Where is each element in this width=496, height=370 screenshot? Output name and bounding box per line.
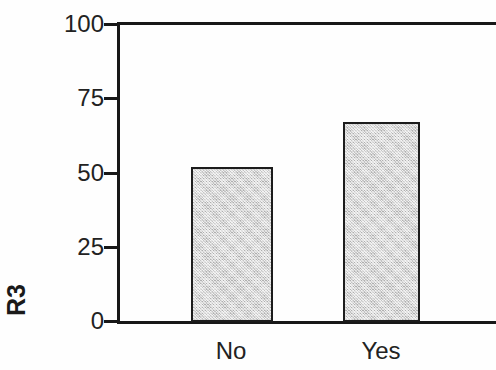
y-axis-tick-labels: 100 75 50 25 0 <box>44 0 104 370</box>
bar-yes <box>343 122 420 322</box>
plot-area <box>117 24 496 322</box>
y-tick-mark-0 <box>104 320 118 323</box>
bar-no <box>191 167 273 322</box>
x-tick-label-yes: Yes <box>321 337 441 365</box>
y-tick-label-50: 50 <box>44 159 104 187</box>
y-tick-mark-75 <box>104 97 118 100</box>
y-tick-label-25: 25 <box>44 233 104 261</box>
y-tick-mark-100 <box>104 23 118 26</box>
y-tick-mark-25 <box>104 246 118 249</box>
x-tick-label-no: No <box>171 337 291 365</box>
y-tick-label-75: 75 <box>44 84 104 112</box>
y-tick-label-100: 100 <box>44 10 104 38</box>
bar-chart: R3 100 75 50 25 0 No Yes <box>0 0 496 370</box>
y-axis-label: R3 <box>2 268 30 332</box>
y-tick-mark-50 <box>104 172 118 175</box>
y-tick-label-0: 0 <box>44 307 104 335</box>
